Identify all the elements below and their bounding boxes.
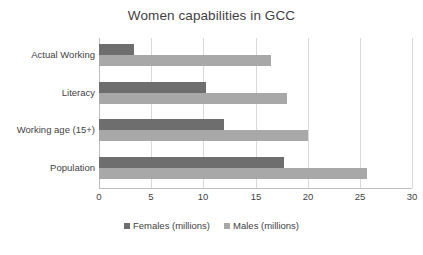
chart-legend: Females (millions) Males (millions) [0,220,423,231]
x-axis-tick-10: 10 [198,191,209,202]
y-axis-label-literacy: Literacy [0,87,95,98]
y-axis-labels: Actual Working Literacy Working age (15+… [0,38,95,188]
chart-container: Women capabilities in GCC [0,0,423,255]
x-axis-tick-30: 30 [407,191,418,202]
bar-male-population [99,168,367,179]
x-axis-line [99,188,412,189]
legend-swatch-males-icon [224,223,230,229]
bar-group-population [99,151,412,189]
legend-label-males: Males (millions) [233,220,299,231]
bar-male-actual-working [99,55,271,66]
bar-female-working-age [99,119,224,130]
chart-title: Women capabilities in GCC [0,8,423,23]
x-axis-tick-5: 5 [148,191,153,202]
y-axis-label-population: Population [0,162,95,173]
plot-area [99,38,412,188]
bar-female-actual-working [99,44,134,55]
bar-group-actual-working [99,38,412,76]
bar-male-working-age [99,130,308,141]
x-axis-tick-0: 0 [96,191,101,202]
bar-male-literacy [99,93,287,104]
y-axis-label-working-age: Working age (15+) [0,124,95,135]
x-axis-tick-20: 20 [303,191,314,202]
legend-label-females: Females (millions) [133,220,210,231]
legend-swatch-females-icon [124,223,130,229]
y-axis-label-actual-working: Actual Working [0,49,95,60]
x-axis-tick-25: 25 [355,191,366,202]
bar-female-literacy [99,82,206,93]
bar-group-working-age [99,113,412,151]
x-axis-tick-15: 15 [251,191,262,202]
bar-female-population [99,157,284,168]
legend-item-females[interactable]: Females (millions) [124,220,210,231]
legend-item-males[interactable]: Males (millions) [224,220,299,231]
bar-group-literacy [99,76,412,114]
gridline-30 [412,38,413,188]
x-axis-labels: 0 5 10 15 20 25 30 [0,191,423,205]
